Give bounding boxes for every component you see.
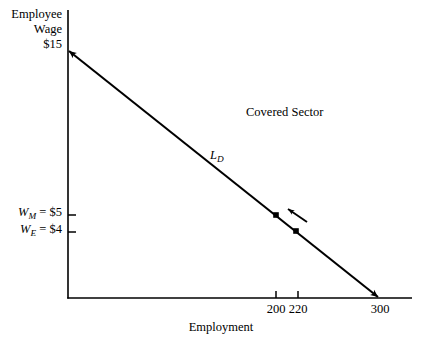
x-tick-label-200: 200: [267, 302, 286, 317]
data-point-200-5: [273, 212, 279, 218]
movement-arrow: [288, 209, 307, 222]
x-axis-title: Employment: [189, 320, 254, 335]
wage-minimum-subscript: M: [28, 211, 36, 221]
wage-equilibrium-equals: =: [39, 222, 46, 236]
y-axis-top-value: $15: [0, 37, 62, 52]
economics-figure: Employee Wage $15 WM = $5 WE = $4 200 22…: [0, 0, 422, 338]
data-point-220-4: [293, 228, 299, 234]
wage-equilibrium-symbol: W: [20, 222, 30, 236]
wage-minimum-symbol: W: [18, 205, 28, 219]
labor-demand-curve: [69, 51, 378, 297]
y-axis-title-line2: Wage: [0, 22, 62, 37]
y-axis-title: Employee Wage $15: [0, 7, 62, 51]
y-label-wage-minimum: WM = $5: [0, 205, 62, 221]
y-axis-title-line1: Employee: [0, 7, 62, 22]
curve-symbol: L: [210, 148, 217, 162]
wage-equilibrium-subscript: E: [31, 228, 37, 238]
plot-canvas: [0, 0, 422, 338]
x-tick-label-220: 220: [289, 302, 308, 317]
curve-subscript: D: [217, 154, 224, 164]
wage-minimum-value: $5: [50, 205, 63, 219]
wage-equilibrium-value: $4: [50, 222, 63, 236]
y-label-wage-equilibrium: WE = $4: [0, 222, 62, 238]
region-annotation: Covered Sector: [246, 105, 323, 120]
curve-label-labor-demand: LD: [210, 148, 224, 164]
x-tick-label-300: 300: [371, 302, 390, 317]
wage-minimum-equals: =: [39, 205, 46, 219]
